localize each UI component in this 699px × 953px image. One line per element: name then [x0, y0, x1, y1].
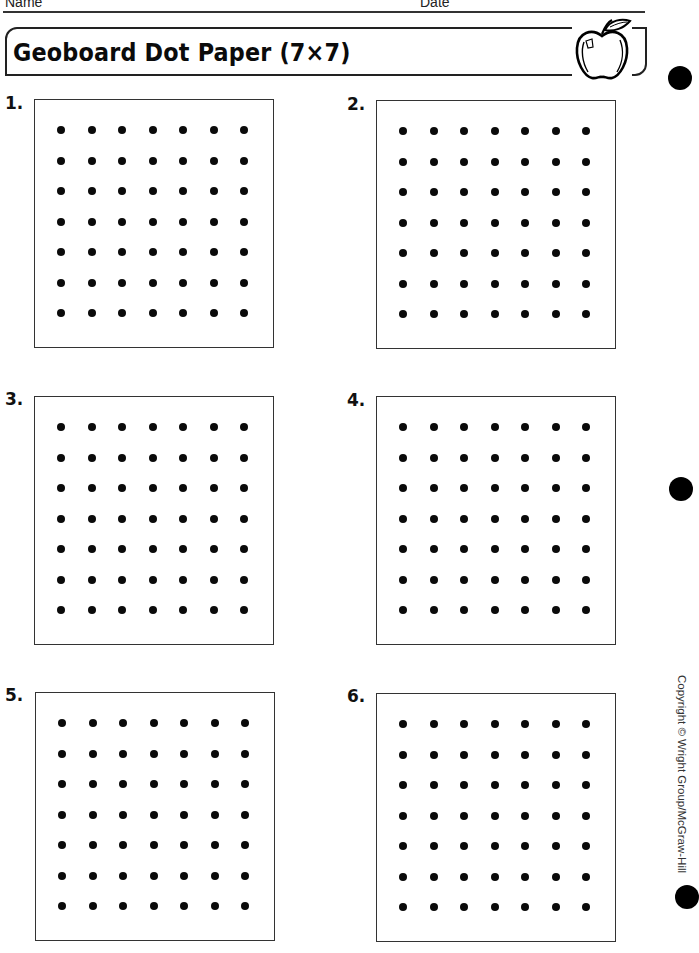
geoboard-peg[interactable] — [180, 780, 188, 788]
geoboard-peg[interactable] — [210, 279, 218, 287]
geoboard-peg[interactable] — [582, 423, 590, 431]
geoboard-peg[interactable] — [399, 903, 407, 911]
geoboard-peg[interactable] — [399, 545, 407, 553]
geoboard-peg[interactable] — [57, 309, 65, 317]
geoboard-peg[interactable] — [210, 423, 218, 431]
geoboard-peg[interactable] — [399, 219, 407, 227]
geoboard-peg[interactable] — [210, 126, 218, 134]
geoboard-peg[interactable] — [460, 842, 468, 850]
geoboard-peg[interactable] — [460, 219, 468, 227]
geoboard-peg[interactable] — [460, 158, 468, 166]
geoboard-peg[interactable] — [399, 454, 407, 462]
geoboard-peg[interactable] — [582, 812, 590, 820]
geoboard-peg[interactable] — [399, 873, 407, 881]
geoboard-peg[interactable] — [241, 719, 249, 727]
geoboard-peg[interactable] — [118, 606, 126, 614]
geoboard-peg[interactable] — [180, 841, 188, 849]
geoboard-peg[interactable] — [399, 812, 407, 820]
geoboard-peg[interactable] — [88, 187, 96, 195]
geoboard-peg[interactable] — [149, 279, 157, 287]
geoboard-peg[interactable] — [149, 576, 157, 584]
geoboard-peg[interactable] — [211, 750, 219, 758]
geoboard-peg[interactable] — [241, 902, 249, 910]
geoboard-peg[interactable] — [118, 309, 126, 317]
geoboard-peg[interactable] — [552, 280, 560, 288]
geoboard-peg[interactable] — [149, 309, 157, 317]
geoboard-peg[interactable] — [399, 720, 407, 728]
geoboard-peg[interactable] — [58, 811, 66, 819]
geoboard-peg[interactable] — [430, 158, 438, 166]
geoboard-peg[interactable] — [179, 484, 187, 492]
geoboard-peg[interactable] — [179, 248, 187, 256]
geoboard-peg[interactable] — [118, 279, 126, 287]
geoboard-peg[interactable] — [89, 719, 97, 727]
geoboard-peg[interactable] — [118, 187, 126, 195]
geoboard-peg[interactable] — [521, 280, 529, 288]
geoboard-peg[interactable] — [399, 781, 407, 789]
geoboard-peg[interactable] — [57, 484, 65, 492]
geoboard-peg[interactable] — [58, 750, 66, 758]
geoboard-peg[interactable] — [552, 720, 560, 728]
geoboard-peg[interactable] — [430, 842, 438, 850]
geoboard-peg[interactable] — [552, 219, 560, 227]
name-date-write-line[interactable] — [3, 11, 645, 13]
geoboard-peg[interactable] — [460, 127, 468, 135]
geoboard-peg[interactable] — [430, 280, 438, 288]
geoboard-peg[interactable] — [118, 126, 126, 134]
geoboard-peg[interactable] — [240, 545, 248, 553]
geoboard-peg[interactable] — [582, 219, 590, 227]
geoboard-peg[interactable] — [552, 545, 560, 553]
geoboard-peg[interactable] — [460, 751, 468, 759]
geoboard-peg[interactable] — [210, 515, 218, 523]
geoboard-peg[interactable] — [88, 576, 96, 584]
geoboard-peg[interactable] — [149, 606, 157, 614]
geoboard-peg[interactable] — [521, 606, 529, 614]
geoboard-peg[interactable] — [582, 515, 590, 523]
geoboard-peg[interactable] — [552, 249, 560, 257]
geoboard-peg[interactable] — [491, 812, 499, 820]
geoboard-peg[interactable] — [399, 576, 407, 584]
geoboard-peg[interactable] — [491, 280, 499, 288]
geoboard-peg[interactable] — [150, 780, 158, 788]
geoboard-peg[interactable] — [210, 248, 218, 256]
geoboard-peg[interactable] — [88, 157, 96, 165]
geoboard-peg[interactable] — [179, 545, 187, 553]
geoboard-peg[interactable] — [88, 309, 96, 317]
geoboard-peg[interactable] — [179, 423, 187, 431]
geoboard-peg[interactable] — [491, 423, 499, 431]
geoboard-peg[interactable] — [582, 484, 590, 492]
geoboard-peg[interactable] — [430, 720, 438, 728]
geoboard-peg[interactable] — [460, 720, 468, 728]
geoboard-peg[interactable] — [240, 218, 248, 226]
geoboard-peg[interactable] — [430, 903, 438, 911]
geoboard-peg[interactable] — [119, 780, 127, 788]
geoboard-peg[interactable] — [582, 903, 590, 911]
geoboard-peg[interactable] — [179, 515, 187, 523]
geoboard-peg[interactable] — [552, 751, 560, 759]
geoboard-peg[interactable] — [582, 873, 590, 881]
geoboard-peg[interactable] — [430, 751, 438, 759]
geoboard-peg[interactable] — [210, 454, 218, 462]
geoboard-peg[interactable] — [552, 158, 560, 166]
geoboard-peg[interactable] — [119, 902, 127, 910]
geoboard-peg[interactable] — [521, 310, 529, 318]
geoboard-peg[interactable] — [491, 576, 499, 584]
geoboard-peg[interactable] — [240, 423, 248, 431]
geoboard-peg[interactable] — [582, 188, 590, 196]
geoboard-peg[interactable] — [582, 781, 590, 789]
geoboard-peg[interactable] — [521, 158, 529, 166]
geoboard-peg[interactable] — [491, 219, 499, 227]
geoboard-peg[interactable] — [582, 751, 590, 759]
geoboard-peg[interactable] — [460, 903, 468, 911]
geoboard-peg[interactable] — [179, 309, 187, 317]
geoboard-peg[interactable] — [57, 545, 65, 553]
geoboard-peg[interactable] — [521, 127, 529, 135]
geoboard-peg[interactable] — [521, 812, 529, 820]
geoboard-peg[interactable] — [460, 545, 468, 553]
geoboard-peg[interactable] — [491, 515, 499, 523]
geoboard-peg[interactable] — [552, 606, 560, 614]
geoboard-peg[interactable] — [57, 423, 65, 431]
geoboard-peg[interactable] — [521, 842, 529, 850]
geoboard-peg[interactable] — [491, 720, 499, 728]
geoboard-peg[interactable] — [88, 515, 96, 523]
